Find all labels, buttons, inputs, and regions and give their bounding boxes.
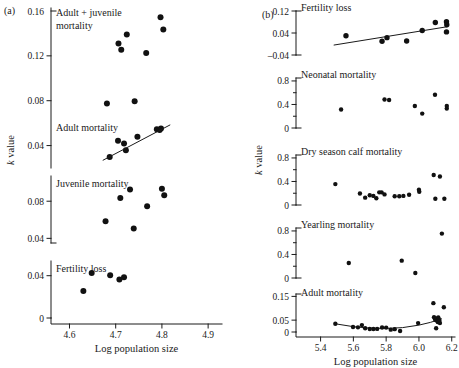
data-point bbox=[379, 39, 384, 44]
data-point bbox=[134, 134, 140, 140]
data-point bbox=[144, 203, 150, 209]
panel-b-xtick-label: 6.2 bbox=[446, 343, 458, 353]
panel-a-upper-ytick-label: 0.16 bbox=[27, 7, 44, 17]
data-point bbox=[107, 272, 113, 278]
data-point bbox=[363, 326, 367, 330]
data-point bbox=[420, 28, 425, 33]
data-point bbox=[375, 327, 379, 331]
panel-a-upper-ytick-label: 0.04 bbox=[27, 141, 44, 151]
panel-a-chart-4-title: Fertility loss bbox=[56, 263, 106, 274]
data-point bbox=[380, 325, 384, 329]
data-point bbox=[413, 104, 417, 108]
data-point bbox=[397, 194, 401, 198]
data-point bbox=[438, 174, 442, 178]
data-point bbox=[442, 305, 446, 309]
data-point bbox=[143, 50, 149, 56]
panel-b-chart-title: Yearling mortality bbox=[301, 219, 374, 230]
data-point bbox=[404, 38, 409, 43]
data-point bbox=[420, 111, 424, 115]
data-point bbox=[434, 326, 438, 330]
panel-b-ytick-label: 0.8 bbox=[277, 153, 289, 163]
data-point bbox=[371, 327, 375, 331]
data-point bbox=[416, 321, 420, 325]
data-point bbox=[374, 196, 378, 200]
data-point bbox=[433, 20, 438, 25]
data-point bbox=[363, 195, 367, 199]
data-point bbox=[80, 288, 86, 294]
panel-b-chart-5-title: Adult mortality bbox=[301, 287, 363, 298]
panel-b-xtick-label: 5.6 bbox=[347, 343, 359, 353]
panel-a-fertility-ytick-label: 0 bbox=[39, 314, 44, 324]
data-point bbox=[160, 27, 166, 33]
data-point bbox=[444, 29, 449, 34]
data-point bbox=[431, 301, 435, 305]
data-point bbox=[400, 258, 404, 262]
data-point bbox=[440, 231, 444, 235]
data-point bbox=[333, 182, 337, 186]
data-point bbox=[89, 270, 95, 276]
data-point bbox=[382, 192, 386, 196]
data-point bbox=[124, 32, 130, 38]
data-point bbox=[115, 138, 121, 144]
panel-b-ytick-label: 0.4 bbox=[277, 177, 289, 187]
data-point bbox=[356, 325, 360, 329]
panel-b-chart-title: Dry season calf mortality bbox=[301, 146, 402, 157]
data-point bbox=[358, 191, 362, 195]
panel-a-xtick-label: 4.9 bbox=[202, 330, 214, 340]
panel-a-upper-ytick-label: 0.08 bbox=[27, 96, 44, 106]
data-point bbox=[384, 35, 389, 40]
data-point bbox=[121, 274, 127, 280]
data-point bbox=[401, 194, 405, 198]
panel-a-upper-ytick-label: 0.12 bbox=[27, 51, 44, 61]
panel-a-letter: (a) bbox=[4, 5, 15, 17]
panel-b-fertility-ytick-label: 0.04 bbox=[272, 29, 289, 39]
data-point bbox=[103, 218, 109, 224]
panel-b-xtick-label: 5.8 bbox=[380, 343, 392, 353]
panel-a-chart-1-title: Adult + juvenile bbox=[56, 7, 122, 18]
data-point bbox=[438, 321, 442, 325]
panel-a-xtick-label: 4.8 bbox=[156, 330, 168, 340]
data-point bbox=[387, 98, 391, 102]
data-point bbox=[384, 325, 388, 329]
data-point bbox=[161, 192, 167, 198]
panel-b-xtick-label: 6.0 bbox=[413, 343, 425, 353]
data-point bbox=[392, 327, 396, 331]
data-point bbox=[158, 14, 164, 20]
panel-b-ytick-label: 0 bbox=[284, 201, 289, 211]
panel-a-xtick-label: 4.7 bbox=[110, 330, 122, 340]
data-point bbox=[407, 193, 411, 197]
panel-b-adult-ytick-label: 0.05 bbox=[272, 316, 289, 326]
data-point bbox=[445, 106, 449, 110]
data-point bbox=[118, 47, 124, 53]
panel-b-x-axis-title: Log population size bbox=[334, 356, 418, 367]
panel-b-ytick-label: 0.8 bbox=[277, 76, 289, 86]
panel-a-chart-3-title: Juvenile mortality bbox=[56, 178, 129, 189]
panel-b-adult-ytick-label: 0.15 bbox=[272, 292, 289, 302]
panel-a-x-axis-title: Log population size bbox=[95, 343, 179, 354]
panel-a-fertility-ytick-label: 0.04 bbox=[27, 271, 44, 281]
data-point bbox=[115, 41, 121, 47]
data-point bbox=[131, 226, 137, 232]
panel-b-y-axis-title: k value bbox=[253, 145, 264, 175]
data-point bbox=[132, 98, 138, 104]
data-point bbox=[417, 190, 421, 194]
data-point bbox=[413, 271, 417, 275]
data-point bbox=[121, 141, 127, 147]
data-point bbox=[351, 325, 355, 329]
data-point bbox=[389, 327, 393, 331]
data-point bbox=[433, 197, 437, 201]
panel-a-juvenile-ytick-label: 0.08 bbox=[27, 197, 44, 207]
panel-a-x-axis bbox=[51, 318, 222, 324]
panel-b-xtick-label: 5.4 bbox=[315, 343, 327, 353]
panel-a-juvenile-ytick-label: 0.04 bbox=[27, 234, 44, 244]
panel-b-ytick-label: 0.4 bbox=[277, 250, 289, 260]
panel-b-fertility-ytick-label: –0.04 bbox=[267, 51, 290, 61]
panel-b-x-axis bbox=[296, 332, 455, 337]
scatter-panel-figure: 0.160.120.080.04(a)Adult + juvenilemorta… bbox=[0, 0, 459, 368]
data-point bbox=[392, 194, 396, 198]
data-point bbox=[333, 322, 337, 326]
panel-a-xtick-label: 4.6 bbox=[64, 330, 76, 340]
data-point bbox=[360, 323, 364, 327]
panel-b-ytick-label: 0.8 bbox=[277, 226, 289, 236]
panel-a-chart-1-title-line2: mortality bbox=[56, 20, 93, 31]
